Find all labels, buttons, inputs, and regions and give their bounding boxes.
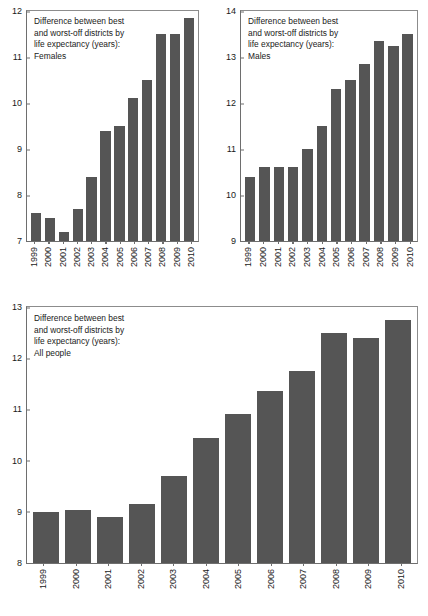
y-tick-label-males-14: 14 — [226, 7, 241, 16]
x-label-slot-females-1999: 1999 — [27, 241, 41, 242]
bar-females-2010 — [184, 18, 194, 241]
bar-males-2001 — [274, 167, 285, 241]
x-label-slot-all-people-2007: 2007 — [287, 563, 320, 564]
bar-slot-males-2003 — [300, 11, 314, 241]
bar-slot-females-2002 — [71, 11, 85, 241]
bar-males-2009 — [388, 46, 399, 242]
y-tick-label-all-people-11: 11 — [13, 405, 27, 414]
bar-slot-all-people-2007 — [286, 307, 318, 563]
x-label-slot-females-2001: 2001 — [56, 241, 70, 242]
bar-series-all-people — [27, 307, 417, 563]
y-tick-label-females-8: 8 — [17, 191, 27, 200]
bar-slot-females-2001 — [57, 11, 71, 241]
bar-slot-all-people-2002 — [126, 307, 158, 563]
x-axis-label-all-people-2003: 2003 — [169, 569, 178, 589]
bar-males-2003 — [302, 149, 313, 241]
bar-slot-females-2008 — [154, 11, 168, 241]
bar-males-2006 — [345, 80, 356, 241]
bar-all-people-2003 — [161, 476, 187, 563]
x-axis-label-males-2007: 2007 — [361, 247, 370, 267]
bar-slot-males-2001 — [272, 11, 286, 241]
x-label-slot-males-2002: 2002 — [285, 241, 300, 242]
x-label-slot-females-2010: 2010 — [184, 241, 198, 242]
bar-slot-all-people-2004 — [190, 307, 222, 563]
bar-slot-females-1999 — [29, 11, 43, 241]
bar-slot-females-2005 — [112, 11, 126, 241]
x-axis-label-all-people-2000: 2000 — [71, 569, 80, 589]
x-axis-label-all-people-2010: 2010 — [396, 569, 405, 589]
bar-slot-males-2007 — [358, 11, 372, 241]
x-axis-label-all-people-2006: 2006 — [266, 569, 275, 589]
x-label-slot-males-2009: 2009 — [388, 241, 403, 242]
x-axis-label-females-2005: 2005 — [115, 247, 124, 267]
x-axis-label-females-2000: 2000 — [44, 247, 53, 267]
bar-males-2008 — [374, 41, 385, 241]
bar-all-people-2001 — [97, 517, 123, 563]
x-label-slot-females-2007: 2007 — [141, 241, 155, 242]
x-label-slot-all-people-2001: 2001 — [92, 563, 125, 564]
x-axis-label-males-2008: 2008 — [376, 247, 385, 267]
y-tick-label-all-people-10: 10 — [12, 456, 27, 465]
x-label-slot-males-2003: 2003 — [300, 241, 315, 242]
bar-slot-females-2000 — [43, 11, 57, 241]
bar-females-2006 — [128, 98, 138, 241]
x-label-slot-all-people-2010: 2010 — [385, 563, 418, 564]
y-tick-label-males-9: 9 — [231, 237, 241, 246]
x-axis-label-males-2001: 2001 — [273, 247, 282, 267]
bar-slot-all-people-2000 — [62, 307, 94, 563]
plot-area-males: Difference between best and worst-off di… — [240, 10, 418, 242]
x-axis-label-males-2005: 2005 — [332, 247, 341, 267]
y-tick-label-females-12: 12 — [12, 7, 27, 16]
bar-slot-females-2009 — [168, 11, 182, 241]
x-axis-label-females-2006: 2006 — [129, 247, 138, 267]
y-tick-label-all-people-13: 13 — [12, 303, 27, 312]
bar-slot-all-people-2003 — [158, 307, 190, 563]
x-axis-label-males-2002: 2002 — [288, 247, 297, 267]
x-label-slot-all-people-2006: 2006 — [255, 563, 288, 564]
y-tick-label-males-12: 12 — [226, 99, 241, 108]
x-label-slot-females-2005: 2005 — [113, 241, 127, 242]
x-label-slot-all-people-2000: 2000 — [60, 563, 93, 564]
bar-males-2002 — [288, 167, 299, 241]
bar-all-people-2000 — [65, 510, 91, 563]
x-label-slot-all-people-2003: 2003 — [157, 563, 190, 564]
bar-females-2005 — [114, 126, 124, 241]
x-axis-label-females-2009: 2009 — [172, 247, 181, 267]
bar-all-people-2004 — [193, 438, 219, 563]
x-axis-label-males-2004: 2004 — [317, 247, 326, 267]
x-label-slot-males-2005: 2005 — [329, 241, 344, 242]
bar-slot-males-2006 — [343, 11, 357, 241]
x-axis-label-all-people-2008: 2008 — [331, 569, 340, 589]
bar-slot-females-2004 — [99, 11, 113, 241]
x-label-slot-males-2000: 2000 — [256, 241, 271, 242]
x-axis-label-all-people-2004: 2004 — [201, 569, 210, 589]
x-axis-labels-females: 1999200020012002200320042005200620072008… — [27, 241, 198, 242]
bar-all-people-2002 — [129, 504, 155, 563]
x-axis-label-females-1999: 1999 — [30, 247, 39, 267]
bar-slot-males-2008 — [372, 11, 386, 241]
x-axis-label-females-2007: 2007 — [144, 247, 153, 267]
x-label-slot-males-2006: 2006 — [344, 241, 359, 242]
bar-slot-males-2009 — [386, 11, 400, 241]
y-tick-label-males-10: 10 — [226, 191, 241, 200]
bar-slot-males-2005 — [329, 11, 343, 241]
x-label-slot-females-2009: 2009 — [170, 241, 184, 242]
x-label-slot-females-2000: 2000 — [41, 241, 55, 242]
x-label-slot-females-2006: 2006 — [127, 241, 141, 242]
y-tick-label-males-11: 11 — [227, 145, 241, 154]
bar-males-1999 — [245, 177, 256, 241]
y-tick-label-females-10: 10 — [12, 99, 27, 108]
chart-panel-females: Difference between best and worst-off di… — [0, 0, 207, 290]
y-tick-label-all-people-9: 9 — [17, 507, 27, 516]
x-axis-label-males-2009: 2009 — [391, 247, 400, 267]
bar-slot-all-people-1999 — [30, 307, 62, 563]
x-axis-label-all-people-2002: 2002 — [136, 569, 145, 589]
y-tick-label-females-7: 7 — [17, 237, 27, 246]
bar-females-1999 — [31, 213, 41, 241]
bar-slot-all-people-2010 — [382, 307, 414, 563]
x-axis-label-females-2004: 2004 — [101, 247, 110, 267]
x-label-slot-males-2010: 2010 — [402, 241, 417, 242]
x-axis-labels-males: 1999200020012002200320042005200620072008… — [241, 241, 417, 242]
bar-males-2010 — [402, 34, 413, 241]
bar-females-2004 — [100, 131, 110, 241]
